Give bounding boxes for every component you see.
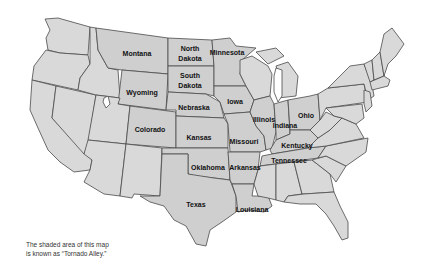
state-south-dakota [168,66,214,96]
label-missouri: Missouri [230,138,259,145]
label-louisiana: Louisiana [236,206,269,213]
state-new-mexico [120,144,162,198]
label-texas: Texas [186,201,205,208]
label-kentucky: Kentucky [281,142,313,150]
label-montana: Montana [123,50,152,57]
lake-michigan [274,68,282,102]
caption-line-2: is known as “Tornado Alley.” [26,249,146,258]
state-florida [284,192,348,240]
caption-line-1: The shaded area of this map [26,240,146,249]
label-tennessee: Tennessee [271,157,307,164]
map-caption: The shaded area of this map is known as … [26,240,146,258]
label-south-dakota-line2: Dakota [178,82,201,89]
label-nebraska: Nebraska [178,104,210,111]
label-south-dakota-line1: South [180,72,200,79]
label-north-dakota-line2: Dakota [178,55,201,62]
state-arizona [84,140,126,196]
label-iowa: Iowa [227,98,243,105]
label-minnesota: Minnesota [210,49,245,56]
label-kansas: Kansas [187,134,212,141]
state-indiana [274,100,290,140]
label-ohio: Ohio [298,112,314,119]
label-indiana: Indiana [273,122,298,129]
label-colorado: Colorado [135,126,166,133]
state-maine [380,28,404,76]
label-north-dakota-line1: North [181,45,200,52]
state-washington [45,18,90,55]
us-map: Montana North Dakota Minnesota South Dak… [0,0,424,272]
label-arkansas: Arkansas [229,164,261,171]
state-kansas [176,116,228,148]
label-wyoming: Wyoming [126,89,157,97]
label-oklahoma: Oklahoma [191,164,225,171]
